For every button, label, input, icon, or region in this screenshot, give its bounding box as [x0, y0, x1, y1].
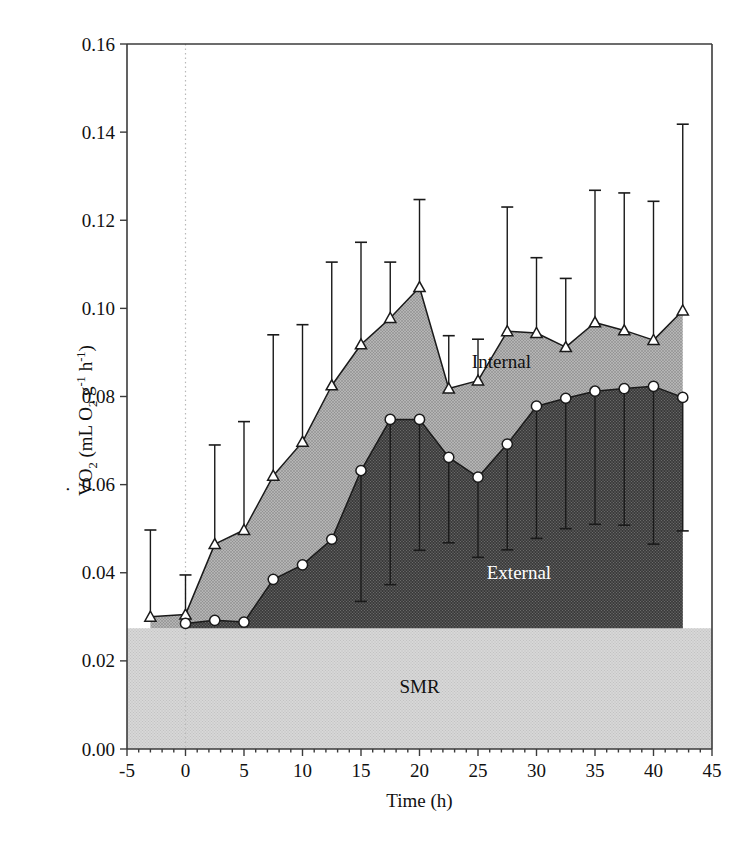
- x-tick-label: 10: [293, 760, 312, 781]
- internal-data-point: [414, 282, 425, 292]
- y-label-h-sup: -1: [74, 351, 88, 361]
- external-data-point: [444, 452, 454, 462]
- x-tick-label: 40: [644, 760, 663, 781]
- y-label-h: h: [75, 362, 96, 376]
- x-tick-label: 35: [586, 760, 605, 781]
- external-data-point: [180, 618, 190, 628]
- y-label-o-sub: 2: [86, 462, 100, 468]
- external-data-point: [473, 472, 483, 482]
- y-label-close: ): [75, 345, 96, 351]
- region-label-internal: Internal: [472, 351, 531, 372]
- y-axis-label-wrapper: VO2 (mL O2 g-1 h-1): [12, 0, 163, 841]
- external-data-point: [531, 401, 541, 411]
- internal-data-point: [502, 326, 513, 336]
- external-data-point: [297, 560, 307, 570]
- internal-data-point: [589, 317, 600, 327]
- x-tick-label: 5: [239, 760, 249, 781]
- external-data-point: [210, 615, 220, 625]
- figure-container: InternalExternalSMR0.000.020.040.060.080…: [0, 0, 754, 841]
- internal-data-point: [677, 305, 688, 315]
- external-data-point: [414, 414, 424, 424]
- x-tick-label: 30: [527, 760, 546, 781]
- x-tick-label: 25: [469, 760, 488, 781]
- external-data-point: [356, 465, 366, 475]
- external-data-point: [327, 534, 337, 544]
- external-data-point: [385, 414, 395, 424]
- external-data-point: [239, 617, 249, 627]
- v-dot-glyph: V: [75, 482, 96, 496]
- x-tick-label: 45: [703, 760, 722, 781]
- x-tick-label: 20: [410, 760, 429, 781]
- external-data-point: [561, 393, 571, 403]
- external-data-point: [590, 386, 600, 396]
- external-data-point: [648, 381, 658, 391]
- region-label-external: External: [487, 562, 551, 583]
- y-label-g: g: [75, 387, 96, 401]
- y-label-open: (mL O: [75, 407, 96, 462]
- y-label-g-sup: -1: [74, 376, 88, 386]
- y-axis-label: VO2 (mL O2 g-1 h-1): [74, 345, 101, 496]
- x-tick-label: 0: [181, 760, 191, 781]
- region-label-smr: SMR: [399, 676, 439, 697]
- external-data-point: [502, 439, 512, 449]
- external-data-point: [678, 392, 688, 402]
- y-label-o2-sub: 2: [86, 401, 100, 407]
- external-data-point: [619, 383, 629, 393]
- y-label-o: O: [75, 469, 96, 483]
- x-axis-title: Time (h): [386, 790, 452, 812]
- external-data-point: [268, 574, 278, 584]
- x-tick-label: 15: [352, 760, 371, 781]
